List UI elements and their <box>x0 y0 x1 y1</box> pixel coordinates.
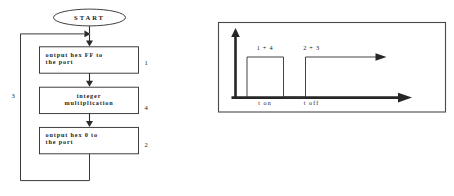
process-box-1-number: 1 <box>145 59 148 66</box>
pulse-label-on: 1 + 4 <box>257 44 274 51</box>
start-node[interactable]: START <box>54 9 126 26</box>
process-box-1-line1: output hex FF to <box>46 51 104 58</box>
pulse-label-off: 2 + 3 <box>303 44 320 51</box>
box3-entry-arrowhead <box>86 121 93 127</box>
waveform-panel: 1 + 4 2 + 3 t on t off <box>219 23 446 113</box>
process-box-1-line2: the port <box>46 58 74 65</box>
process-box-2-line1: integer <box>77 92 102 99</box>
process-box-2-line2: multiplication <box>64 99 113 106</box>
time-label-t-on: t on <box>258 100 272 106</box>
process-box-2-number: 4 <box>145 104 149 111</box>
time-label-t-off: t off <box>304 100 320 106</box>
box1-entry-arrowhead <box>86 40 93 46</box>
process-box-3-line1: output hex 0 to <box>46 131 98 138</box>
start-node-label: START <box>74 14 105 21</box>
loop-back-number: 3 <box>12 92 16 99</box>
process-box-integer-multiplication[interactable]: integer multiplication <box>40 87 139 113</box>
figure-canvas: START output hex FF to the port 1 <box>0 0 454 196</box>
flowchart-panel: START output hex FF to the port 1 <box>12 9 149 181</box>
composite-figure: START output hex FF to the port 1 <box>0 0 454 196</box>
process-box-3-number: 2 <box>145 141 148 148</box>
process-box-output-ff[interactable]: output hex FF to the port <box>40 47 139 73</box>
process-box-3-line2: the port <box>46 138 74 145</box>
process-box-output-zero[interactable]: output hex 0 to the port <box>40 127 139 153</box>
box2-entry-arrowhead <box>86 81 93 87</box>
